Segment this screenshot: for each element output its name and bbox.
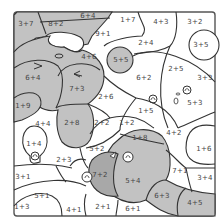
region-label[interactable]: 1+7 [120, 16, 135, 24]
region-label[interactable]: 6+2 [136, 74, 151, 82]
region-label[interactable]: 4+1 [66, 206, 81, 214]
region-label[interactable]: 2+6 [98, 93, 113, 101]
region-label[interactable]: 5+1 [34, 192, 49, 200]
region-label[interactable]: 7+2 [92, 171, 107, 179]
region-label[interactable]: 1+2 [119, 119, 134, 127]
region-label[interactable]: 7+1 [172, 167, 187, 175]
region-label[interactable]: 1+9 [15, 102, 30, 110]
region-label[interactable]: 3+5 [193, 41, 208, 49]
region-label[interactable]: 6+4 [25, 74, 40, 82]
region-label[interactable]: 6+1 [125, 205, 140, 213]
region-label[interactable]: 7+3 [69, 85, 84, 93]
region-label[interactable]: 2+1 [95, 203, 110, 211]
region-label[interactable]: 3+7 [18, 20, 33, 28]
region-label[interactable]: 6+4 [80, 12, 95, 20]
region-label[interactable]: 8+2 [48, 20, 63, 28]
region-label[interactable]: 3+3 [197, 74, 212, 82]
region-label[interactable]: 4+6 [81, 53, 96, 61]
region-label[interactable]: 1+3 [14, 203, 29, 211]
region-label[interactable]: 2+4 [138, 39, 153, 47]
region-label[interactable]: 1+6 [196, 145, 211, 153]
region-label[interactable]: 4+4 [35, 120, 50, 128]
region-label[interactable]: 2+2 [94, 119, 109, 127]
region-label[interactable]: 6+3 [154, 192, 169, 200]
region-label[interactable]: 3+4 [197, 174, 212, 182]
region-label[interactable]: 1+8 [132, 134, 147, 142]
region-label[interactable]: 1+4 [26, 140, 41, 148]
region-label[interactable]: 4+5 [187, 199, 202, 207]
region-label[interactable]: 5+2 [89, 145, 104, 153]
region-label[interactable]: 5+3 [187, 99, 202, 107]
region-label[interactable]: 5+5 [113, 56, 128, 64]
region-label[interactable]: 1+5 [138, 107, 153, 115]
region-label[interactable]: 2+5 [168, 65, 183, 73]
region-label[interactable]: 5+4 [125, 177, 140, 185]
region-label[interactable]: 3+1 [15, 173, 30, 181]
region-label[interactable]: 9+1 [95, 30, 110, 38]
region-label[interactable]: 2+8 [64, 119, 79, 127]
puzzle-outline-drawing [0, 0, 222, 223]
region-label[interactable]: 2+3 [56, 156, 71, 164]
color-by-number-puzzle: 3+7 8+2 6+4 1+7 4+3 3+2 9+1 2+4 3+5 5+5 … [0, 0, 222, 223]
region-label[interactable]: 4+2 [166, 129, 181, 137]
region-label[interactable]: 3+2 [187, 18, 202, 26]
region-label[interactable]: 4+3 [153, 18, 168, 26]
